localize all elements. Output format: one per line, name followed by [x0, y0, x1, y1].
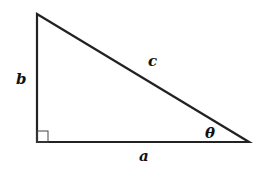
label-side-a: a — [139, 147, 149, 165]
label-side-b: b — [16, 70, 27, 88]
triangle-shape — [37, 14, 249, 142]
label-hypotenuse-c: c — [148, 52, 157, 70]
right-angle-marker — [37, 131, 48, 142]
right-triangle-diagram: b c θ a — [0, 0, 260, 171]
label-angle-theta: θ — [205, 124, 215, 142]
